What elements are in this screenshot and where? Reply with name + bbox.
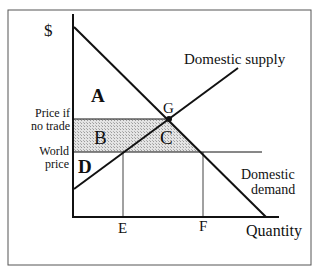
world-price-label-2: price xyxy=(45,157,69,171)
area-a-label: A xyxy=(91,85,105,106)
demand-label-1: Domestic xyxy=(241,167,295,182)
quantity-f-label: F xyxy=(199,218,207,234)
area-c-label: C xyxy=(160,127,173,148)
x-axis-label: Quantity xyxy=(246,222,302,240)
point-g-label: G xyxy=(163,100,174,116)
no-trade-price-label-2: no trade xyxy=(31,119,70,133)
area-b-label: B xyxy=(94,127,107,148)
supply-label: Domestic supply xyxy=(184,51,286,67)
quantity-e-label: E xyxy=(118,220,127,236)
demand-label-2: demand xyxy=(251,182,295,197)
no-trade-price-label-1: Price if xyxy=(35,106,70,120)
y-axis-label: $ xyxy=(44,21,53,40)
equilibrium-point-g xyxy=(166,116,172,122)
diagram-frame: $ Domestic supply A G B C D Price if no … xyxy=(0,0,316,268)
area-d-label: D xyxy=(78,156,92,177)
world-price-label-1: World xyxy=(39,144,69,158)
supply-demand-diagram: $ Domestic supply A G B C D Price if no … xyxy=(0,0,316,268)
